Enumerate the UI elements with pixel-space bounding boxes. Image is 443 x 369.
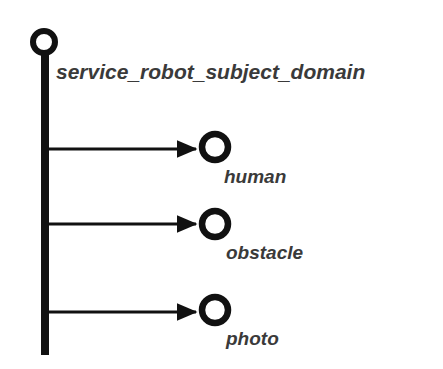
obstacle-label: obstacle bbox=[226, 242, 304, 263]
photo-node-ring-icon bbox=[202, 297, 228, 323]
child-node-photo: photo bbox=[49, 297, 279, 349]
photo-label: photo bbox=[225, 328, 279, 349]
child-node-human: human bbox=[49, 134, 286, 187]
human-node-ring-icon bbox=[202, 134, 228, 160]
trunk-line bbox=[41, 52, 49, 355]
obstacle-node-ring-icon bbox=[202, 211, 228, 237]
root-node-ring-icon bbox=[33, 31, 55, 53]
child-node-obstacle: obstacle bbox=[49, 211, 304, 263]
root-label: service_robot_subject_domain bbox=[56, 60, 365, 83]
subject-domain-tree-diagram: service_robot_subject_domain human obsta… bbox=[0, 0, 443, 369]
root-node: service_robot_subject_domain bbox=[33, 31, 365, 355]
human-label: human bbox=[224, 166, 286, 187]
